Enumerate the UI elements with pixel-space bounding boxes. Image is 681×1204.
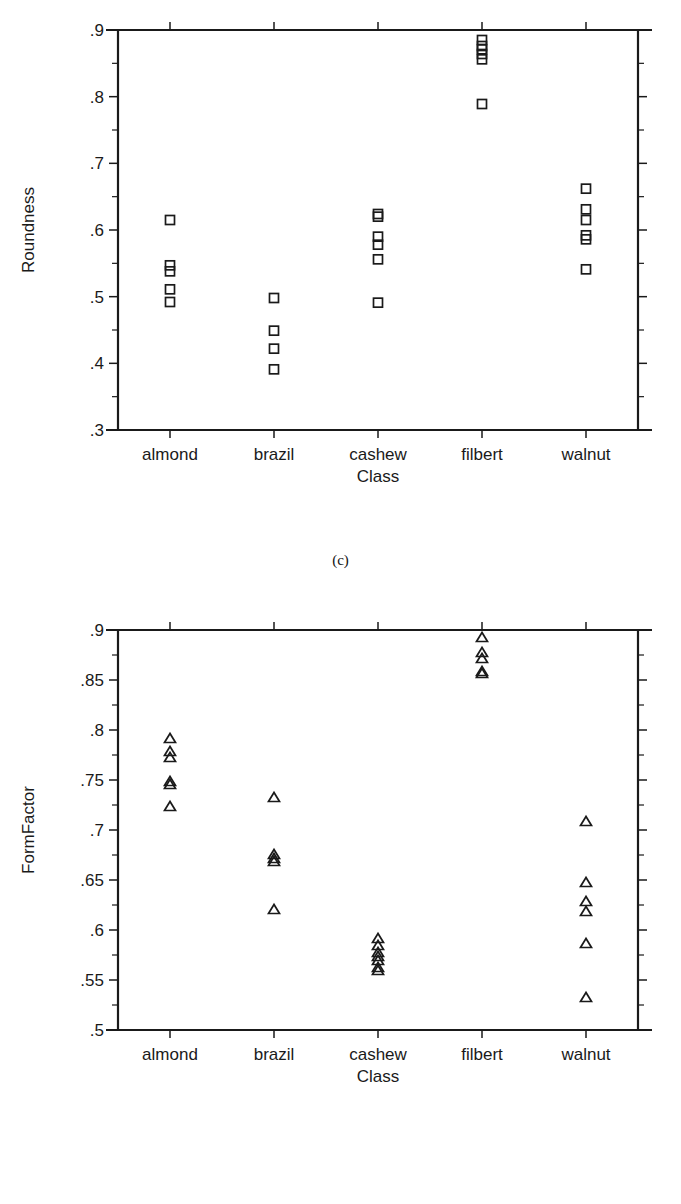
- data-point-almond-2: [166, 267, 175, 276]
- data-point-almond-4: [166, 298, 175, 307]
- y-tick-label: .55: [80, 971, 104, 990]
- x-category-label-almond: almond: [142, 445, 198, 464]
- data-point-filbert-5: [478, 100, 487, 109]
- x-category-label-filbert: filbert: [461, 1045, 503, 1064]
- y-tick-label: .3: [90, 421, 104, 440]
- y-tick-label: .5: [90, 288, 104, 307]
- x-category-label-brazil: brazil: [254, 445, 295, 464]
- data-point-almond-3: [166, 285, 175, 294]
- x-axis-title: Class: [357, 1067, 400, 1086]
- x-category-label-brazil: brazil: [254, 1045, 295, 1064]
- data-point-almond-0: [166, 216, 175, 225]
- y-tick-label: .7: [90, 154, 104, 173]
- data-point-walnut-2: [581, 897, 592, 906]
- data-point-walnut-5: [581, 993, 592, 1002]
- data-point-walnut-2: [582, 216, 591, 225]
- figure-c: .3.4.5.6.7.8.9Roundnessalmondbrazilcashe…: [0, 0, 681, 600]
- y-tick-label: .9: [90, 21, 104, 40]
- x-category-label-almond: almond: [142, 1045, 198, 1064]
- data-point-cashew-5: [374, 298, 383, 307]
- data-point-walnut-0: [582, 184, 591, 193]
- data-point-filbert-0: [478, 36, 487, 45]
- x-category-label-filbert: filbert: [461, 445, 503, 464]
- data-point-brazil-3: [270, 365, 279, 374]
- formfactor-chart-svg: .5.55.6.65.7.75.8.85.9FormFactoralmondbr…: [0, 600, 681, 1140]
- y-tick-label: .6: [90, 221, 104, 240]
- figure-c-caption: (c): [0, 552, 681, 569]
- x-category-label-walnut: walnut: [560, 445, 610, 464]
- data-point-walnut-3: [581, 907, 592, 916]
- roundness-plot: .3.4.5.6.7.8.9Roundnessalmondbrazilcashe…: [0, 0, 681, 540]
- y-tick-label: .85: [80, 671, 104, 690]
- data-point-almond-5: [165, 802, 176, 811]
- data-point-walnut-1: [582, 205, 591, 214]
- x-category-label-cashew: cashew: [349, 1045, 407, 1064]
- data-point-brazil-2: [270, 344, 279, 353]
- y-tick-label: .65: [80, 871, 104, 890]
- formfactor-plot: .5.55.6.65.7.75.8.85.9FormFactoralmondbr…: [0, 600, 681, 1140]
- data-point-almond-0: [165, 734, 176, 743]
- roundness-chart-svg: .3.4.5.6.7.8.9Roundnessalmondbrazilcashe…: [0, 0, 681, 540]
- data-point-brazil-1: [270, 326, 279, 335]
- y-tick-label: .7: [90, 821, 104, 840]
- y-tick-label: .5: [90, 1021, 104, 1040]
- data-point-cashew-1: [374, 212, 383, 221]
- x-category-label-walnut: walnut: [560, 1045, 610, 1064]
- data-point-walnut-1: [581, 878, 592, 887]
- x-axis-title: Class: [357, 467, 400, 486]
- y-axis-title: Roundness: [19, 187, 38, 273]
- y-tick-label: .6: [90, 921, 104, 940]
- data-point-brazil-0: [270, 294, 279, 303]
- data-point-walnut-5: [582, 265, 591, 274]
- x-category-label-cashew: cashew: [349, 445, 407, 464]
- y-axis-title: FormFactor: [19, 786, 38, 874]
- y-tick-label: .8: [90, 88, 104, 107]
- data-point-almond-1: [166, 261, 175, 270]
- y-tick-label: .4: [90, 354, 104, 373]
- data-point-cashew-0: [374, 210, 383, 219]
- data-point-filbert-0: [477, 633, 488, 642]
- y-tick-label: .9: [90, 621, 104, 640]
- data-point-brazil-4: [269, 905, 280, 914]
- data-point-brazil-3: [269, 793, 280, 802]
- data-point-cashew-4: [374, 255, 383, 264]
- y-tick-label: .75: [80, 771, 104, 790]
- data-point-walnut-4: [581, 939, 592, 948]
- data-point-walnut-0: [581, 817, 592, 826]
- y-tick-label: .8: [90, 721, 104, 740]
- figure-d: .5.55.6.65.7.75.8.85.9FormFactoralmondbr…: [0, 600, 681, 1204]
